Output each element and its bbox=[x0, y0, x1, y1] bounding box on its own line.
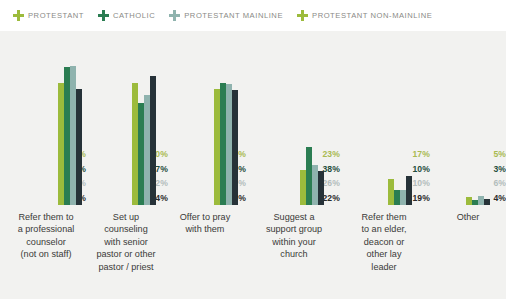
value-label-stack: 23%38%26%22% bbox=[248, 147, 340, 205]
legend-label: PROTESTANT bbox=[28, 11, 84, 20]
bar-group-other: 5%3%6%4%Other bbox=[430, 31, 506, 299]
legend-item-protestant[interactable]: PROTESTANT bbox=[13, 10, 84, 21]
bar-protestant-non-mainline[interactable] bbox=[76, 89, 82, 205]
value-label-stack: 17%10%10%19% bbox=[338, 147, 430, 205]
cross-icon bbox=[297, 10, 308, 21]
bar-protestant-non-mainline[interactable] bbox=[318, 171, 324, 205]
bars bbox=[300, 147, 324, 205]
category-label-line: leader bbox=[338, 261, 430, 273]
bars bbox=[388, 176, 412, 205]
category-label-line: deacon or bbox=[338, 236, 430, 248]
bars bbox=[466, 196, 490, 205]
category-label-line: a professional bbox=[6, 223, 86, 235]
category-label-line: Other bbox=[430, 211, 506, 223]
legend-label: CATHOLIC bbox=[113, 11, 155, 20]
category-label-line: other lay bbox=[338, 248, 430, 260]
legend-label: PROTESTANT NON-MAINLINE bbox=[312, 11, 432, 20]
value-label-protestant: 17% bbox=[338, 147, 430, 162]
legend-item-protestant-non-mainline[interactable]: PROTESTANT NON-MAINLINE bbox=[297, 10, 432, 21]
value-label-protestant: 23% bbox=[248, 147, 340, 162]
legend-item-protestant-mainline[interactable]: PROTESTANT MAINLINE bbox=[169, 10, 283, 21]
category-label-line: with senior bbox=[84, 236, 168, 248]
value-label-catholic: 3% bbox=[430, 162, 506, 177]
category-label-line: Set up bbox=[84, 211, 168, 223]
category-label-line: with them bbox=[164, 223, 246, 235]
value-label-catholic: 38% bbox=[248, 162, 340, 177]
value-label-protestant: 5% bbox=[430, 147, 506, 162]
category-label: Suggest asupport groupwithin yourchurch bbox=[248, 211, 340, 299]
category-label-line: (not on staff) bbox=[6, 248, 86, 260]
value-label-protestant-mainline: 10% bbox=[338, 176, 430, 191]
category-label-line: pastor / priest bbox=[84, 261, 168, 273]
category-label: Other bbox=[430, 211, 506, 299]
category-label-line: support group bbox=[248, 223, 340, 235]
bar-group-refer-professional-counselor: 80%90%91%76%Refer them toa professionalc… bbox=[6, 31, 86, 299]
value-label-protestant-non-mainline: 22% bbox=[248, 191, 340, 206]
bar-protestant-non-mainline[interactable] bbox=[232, 90, 238, 205]
legend-item-catholic[interactable]: CATHOLIC bbox=[98, 10, 155, 21]
bar-chart-plot: 80%90%91%76%Refer them toa professionalc… bbox=[0, 31, 506, 299]
chart-legend: PROTESTANT CATHOLIC PROTESTANT MAINLINE … bbox=[0, 0, 506, 31]
category-label-line: within your bbox=[248, 236, 340, 248]
value-label-protestant-non-mainline: 19% bbox=[338, 191, 430, 206]
cross-icon bbox=[98, 10, 109, 21]
legend-label: PROTESTANT MAINLINE bbox=[184, 11, 283, 20]
category-label: Offer to praywith them bbox=[164, 211, 246, 299]
bar-group-set-up-counseling-pastor: 80%67%72%84%Set upcounselingwith seniorp… bbox=[84, 31, 168, 299]
category-label: Refer them toa professionalcounselor(not… bbox=[6, 211, 86, 299]
bar-protestant-non-mainline[interactable] bbox=[406, 176, 412, 205]
cross-icon bbox=[169, 10, 180, 21]
category-label-line: to an elder, bbox=[338, 223, 430, 235]
category-label-line: counseling bbox=[84, 223, 168, 235]
category-label-line: Refer them to bbox=[6, 211, 86, 223]
category-label-line: Refer them bbox=[338, 211, 430, 223]
bar-protestant-non-mainline[interactable] bbox=[484, 199, 490, 205]
bar-group-suggest-support-group: 23%38%26%22%Suggest asupport groupwithin… bbox=[248, 31, 340, 299]
bar-group-offer-to-pray: 76%80%79%75%Offer to praywith them bbox=[164, 31, 246, 299]
bars bbox=[214, 83, 238, 205]
value-label-protestant-mainline: 6% bbox=[430, 176, 506, 191]
bar-protestant-non-mainline[interactable] bbox=[150, 76, 156, 205]
category-label-line: Offer to pray bbox=[164, 211, 246, 223]
value-label-protestant-mainline: 26% bbox=[248, 176, 340, 191]
category-label: Set upcounselingwith seniorpastor or oth… bbox=[84, 211, 168, 299]
category-label-line: pastor or other bbox=[84, 248, 168, 260]
category-label: Refer themto an elder,deacon orother lay… bbox=[338, 211, 430, 299]
cross-icon bbox=[13, 10, 24, 21]
value-label-catholic: 10% bbox=[338, 162, 430, 177]
category-label-line: Suggest a bbox=[248, 211, 340, 223]
bar-group-refer-elder-deacon: 17%10%10%19%Refer themto an elder,deacon… bbox=[338, 31, 430, 299]
bars bbox=[58, 66, 82, 205]
bars bbox=[132, 76, 156, 205]
category-label-line: counselor bbox=[6, 236, 86, 248]
category-label-line: church bbox=[248, 248, 340, 260]
